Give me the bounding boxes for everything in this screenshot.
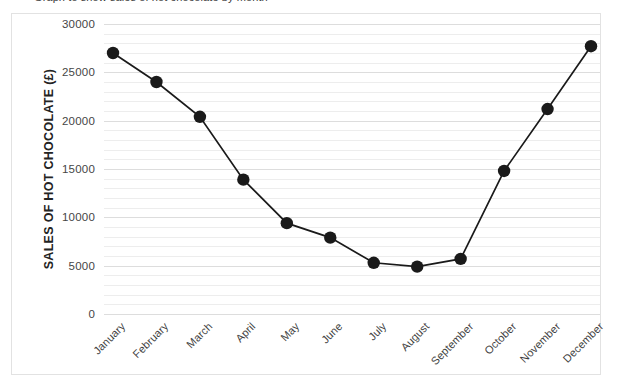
data-point-marker[interactable] xyxy=(368,257,380,269)
line-series xyxy=(104,24,600,314)
data-point-marker[interactable] xyxy=(281,217,293,229)
data-point-marker[interactable] xyxy=(411,260,423,272)
x-tick-label: November xyxy=(517,320,562,365)
gridline-major xyxy=(104,314,600,315)
data-point-marker[interactable] xyxy=(194,111,206,123)
y-axis-title-label: SALES OF HOT CHOCOLATE (£) xyxy=(42,69,56,270)
data-point-marker[interactable] xyxy=(107,47,119,59)
x-tick-label: April xyxy=(233,320,257,344)
plot-area: 300002500020000150001000050000 JanuaryFe… xyxy=(104,24,600,314)
data-point-marker[interactable] xyxy=(150,76,162,88)
x-tick-label: July xyxy=(366,320,389,343)
y-tick-label: 15000 xyxy=(62,163,95,175)
x-tick-label: December xyxy=(561,320,606,365)
x-tick-label: August xyxy=(399,320,432,353)
data-point-marker[interactable] xyxy=(237,173,249,185)
x-tick-label: May xyxy=(278,320,301,343)
chart-frame: SALES OF HOT CHOCOLATE (£) 3000025000200… xyxy=(11,13,601,375)
y-tick-label: 0 xyxy=(88,308,95,320)
cropped-caption-strip: Graph to show sales of hot chocolate by … xyxy=(0,0,621,9)
data-point-marker[interactable] xyxy=(454,253,466,265)
series-line xyxy=(113,46,591,266)
x-tick-label: February xyxy=(131,320,171,360)
data-point-marker[interactable] xyxy=(324,231,336,243)
x-tick-label: January xyxy=(91,320,128,357)
y-tick-label: 25000 xyxy=(62,66,95,78)
chart-caption-text: Graph to show sales of hot chocolate by … xyxy=(34,0,268,3)
x-tick-label: March xyxy=(184,320,214,350)
data-point-marker[interactable] xyxy=(498,165,510,177)
y-tick-label: 20000 xyxy=(62,115,95,127)
y-tick-label: 10000 xyxy=(62,211,95,223)
y-tick-label: 5000 xyxy=(69,260,95,272)
data-point-marker[interactable] xyxy=(541,103,553,115)
y-tick-label: 30000 xyxy=(62,18,95,30)
x-tick-label: October xyxy=(482,320,519,357)
x-tick-label: September xyxy=(428,320,475,367)
x-tick-label: June xyxy=(319,320,345,346)
y-axis-title: SALES OF HOT CHOCOLATE (£) xyxy=(38,14,60,324)
data-point-marker[interactable] xyxy=(585,40,597,52)
